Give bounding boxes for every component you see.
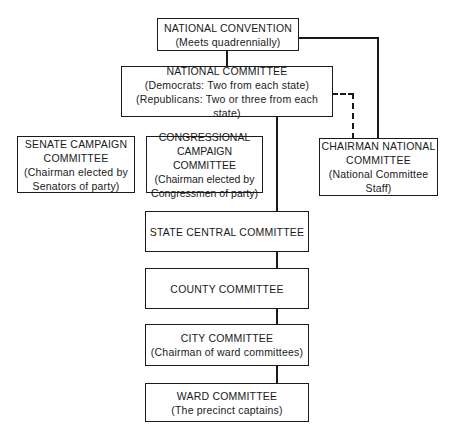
node-title: NATIONAL CONVENTION <box>164 21 292 35</box>
node-senate-campaign-committee: SENATE CAMPAIGN COMMITTEE (Chairman elec… <box>17 136 135 193</box>
node-title: CONGRESSIONAL <box>159 130 251 144</box>
node-title: WARD COMMITTEE <box>177 389 277 403</box>
node-state-central-committee: STATE CENTRAL COMMITTEE <box>145 211 309 252</box>
node-subtitle: (Meets quadrennially) <box>175 35 280 49</box>
edge-city-to-ward <box>276 365 278 384</box>
node-subtitle: (National Committee <box>329 167 429 181</box>
edge-convention-to-chairman-h <box>298 37 378 39</box>
node-title: NATIONAL COMMITTEE <box>167 64 288 78</box>
node-title: SENATE CAMPAIGN <box>25 137 127 151</box>
node-title: STATE CENTRAL COMMITTEE <box>150 225 304 239</box>
node-title: CHAIRMAN NATIONAL <box>321 139 435 153</box>
edge-committee-to-chairman-dashed-h <box>332 93 354 95</box>
node-subtitle: Staff) <box>365 181 391 195</box>
node-title: COMMITTEE <box>44 151 109 165</box>
edge-committee-to-state <box>276 116 278 212</box>
node-chairman-national-committee: CHAIRMAN NATIONAL COMMITTEE (National Co… <box>319 138 438 196</box>
node-subtitle: (Chairman elected by <box>155 172 255 186</box>
node-subtitle: (The precinct captains) <box>171 403 282 417</box>
node-subtitle: Congressmen of party) <box>151 186 258 200</box>
node-subtitle: (Chairman elected by <box>24 165 128 179</box>
node-title: COUNTY COMMITTEE <box>170 282 283 296</box>
node-subtitle: Senators of party) <box>32 179 119 193</box>
node-county-committee: COUNTY COMMITTEE <box>145 268 309 309</box>
node-subtitle: (Democrats: Two from each state) <box>145 78 309 92</box>
node-congressional-campaign-committee: CONGRESSIONAL CAMPAIGN COMMITTEE (Chairm… <box>146 136 263 193</box>
edge-convention-to-chairman-v <box>377 37 379 139</box>
node-title: CAMPAIGN COMMITTEE <box>147 144 262 172</box>
node-national-committee: NATIONAL COMMITTEE (Democrats: Two from … <box>121 66 333 117</box>
node-subtitle: (Chairman of ward committees) <box>151 345 303 359</box>
node-city-committee: CITY COMMITTEE (Chairman of ward committ… <box>145 324 309 366</box>
node-title: CITY COMMITTEE <box>181 331 273 345</box>
node-subtitle: (Republicans: Two or three from each sta… <box>122 92 332 120</box>
edge-state-to-county <box>276 251 278 269</box>
node-national-convention: NATIONAL CONVENTION (Meets quadrennially… <box>157 18 299 51</box>
edge-county-to-city <box>276 308 278 325</box>
edge-committee-to-chairman-dashed-v <box>352 93 354 139</box>
node-title: COMMITTEE <box>346 153 411 167</box>
node-ward-committee: WARD COMMITTEE (The precinct captains) <box>145 383 309 422</box>
